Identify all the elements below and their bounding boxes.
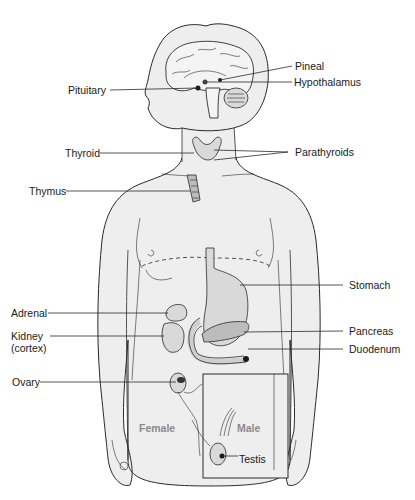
label-parathyroids: Parathyroids xyxy=(295,146,354,158)
label-kidney: Kidney xyxy=(11,330,43,342)
label-stomach: Stomach xyxy=(349,279,390,291)
label-thyroid: Thyroid xyxy=(65,147,100,159)
label-pineal: Pineal xyxy=(295,60,324,72)
label-female: Female xyxy=(139,422,175,434)
endocrine-diagram xyxy=(0,0,415,500)
kidney-organ xyxy=(162,323,184,353)
label-pituitary: Pituitary xyxy=(68,84,106,96)
ovary-organ xyxy=(170,373,186,393)
label-hypothalamus: Hypothalamus xyxy=(294,76,361,88)
label-duodenum: Duodenum xyxy=(349,343,400,355)
testis-organ xyxy=(210,443,226,465)
label-pancreas: Pancreas xyxy=(349,325,393,337)
label-thymus: Thymus xyxy=(29,185,66,197)
label-kidney-cortex: (cortex) xyxy=(11,342,47,354)
label-ovary: Ovary xyxy=(12,376,40,388)
label-adrenal: Adrenal xyxy=(11,307,47,319)
label-male: Male xyxy=(237,422,260,434)
label-testis: Testis xyxy=(239,453,266,465)
